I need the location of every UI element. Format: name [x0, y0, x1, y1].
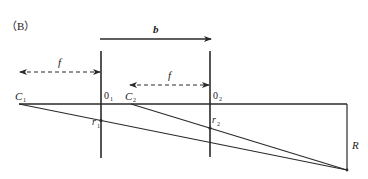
o2-label: 0 — [213, 90, 218, 101]
c1-subscript: 1 — [23, 97, 26, 103]
c1-label: C — [15, 90, 23, 102]
c2-subscript: 2 — [133, 97, 136, 103]
c1-ray — [19, 104, 347, 170]
f-right-label: f — [168, 69, 173, 81]
r1-subscript: 1 — [97, 123, 100, 129]
f-left-label: f — [58, 56, 63, 68]
panel-label: （B） — [6, 20, 35, 32]
r1-point — [99, 119, 102, 122]
b-label: b — [153, 23, 159, 35]
o1-label: 0 — [104, 90, 109, 101]
r2-label: r — [212, 114, 216, 125]
o1-subscript: 1 — [110, 96, 113, 102]
c2-ray — [131, 104, 347, 170]
r2-subscript: 2 — [217, 121, 220, 127]
R-label: R — [351, 139, 359, 151]
r2-point — [208, 126, 211, 129]
convergence-point — [346, 169, 349, 172]
r1-label: r — [92, 116, 96, 127]
lens-diagram: （B） b f f C 1 0 1 C 2 0 2 r 1 r 2 R — [0, 0, 368, 179]
o2-subscript: 2 — [219, 96, 222, 102]
c2-label: C — [125, 90, 133, 102]
